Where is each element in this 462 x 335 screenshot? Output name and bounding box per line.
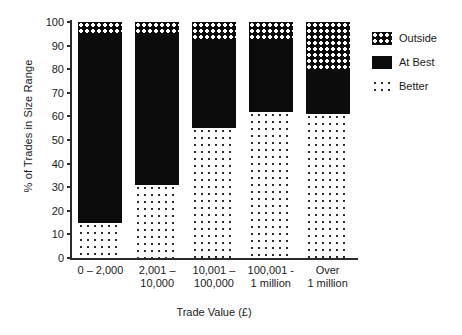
legend-label-outside: Outside <box>399 32 437 44</box>
plot-area: 0102030405060708090100 <box>72 22 356 258</box>
y-axis-tick-label: 10 <box>52 228 64 240</box>
stacked-bar <box>135 22 179 258</box>
bar-segment-at-best <box>135 34 179 185</box>
bar-segment-outside <box>249 22 293 39</box>
y-axis-tick-mark <box>67 233 72 235</box>
y-axis-tick-label: 80 <box>52 63 64 75</box>
y-axis-tick-mark <box>67 139 72 141</box>
y-axis-tick-mark <box>67 68 72 70</box>
y-axis-tick-label: 90 <box>52 40 64 52</box>
legend: Outside At Best Better <box>372 28 460 100</box>
better-swatch-icon <box>372 80 392 93</box>
y-axis-tick-mark <box>67 257 72 259</box>
legend-item-outside: Outside <box>372 28 460 48</box>
y-axis-tick: 90 <box>52 40 72 52</box>
y-axis-tick: 20 <box>52 205 72 217</box>
x-axis-tick-label-line2: 1 million <box>285 277 371 290</box>
legend-item-better: Better <box>372 76 460 96</box>
stacked-bar <box>306 22 350 258</box>
y-axis-tick-label: 70 <box>52 87 64 99</box>
bar-segment-outside <box>306 22 350 69</box>
stacked-bar <box>78 22 122 258</box>
bar-segment-better <box>135 185 179 258</box>
legend-item-at-best: At Best <box>372 52 460 72</box>
bar-segment-at-best <box>192 41 236 128</box>
y-axis-title: % of Trades in Size Range <box>22 16 34 236</box>
legend-label-better: Better <box>399 80 428 92</box>
y-axis-tick-mark <box>67 186 72 188</box>
y-axis-tick-mark <box>67 92 72 94</box>
y-axis-tick-label: 100 <box>46 16 64 28</box>
y-axis-tick: 40 <box>52 158 72 170</box>
y-axis-tick: 0 <box>58 252 72 264</box>
y-axis-tick-mark <box>67 21 72 23</box>
bar-segment-at-best <box>78 34 122 223</box>
bar-segment-outside <box>78 22 122 34</box>
y-axis-tick-label: 30 <box>52 181 64 193</box>
outside-swatch-icon <box>372 32 392 45</box>
legend-label-at-best: At Best <box>399 56 434 68</box>
bar-segment-better <box>306 114 350 258</box>
y-axis-tick-label: 20 <box>52 205 64 217</box>
bar-segment-better <box>249 112 293 258</box>
y-axis-tick-label: 50 <box>52 134 64 146</box>
x-axis-tick-label-line1: Over <box>285 264 371 277</box>
x-axis-line <box>70 258 358 260</box>
bar-segment-outside <box>135 22 179 34</box>
y-axis-tick-label: 0 <box>58 252 64 264</box>
y-axis-tick: 70 <box>52 87 72 99</box>
y-axis-tick-label: 40 <box>52 158 64 170</box>
bar-chart-figure: % of Trades in Size Range 01020304050607… <box>0 0 462 335</box>
stacked-bar <box>249 22 293 258</box>
bar-segment-better <box>78 223 122 258</box>
at-best-swatch-icon <box>372 56 392 69</box>
y-axis-tick: 50 <box>52 134 72 146</box>
bar-segment-outside <box>192 22 236 41</box>
y-axis-tick-mark <box>67 210 72 212</box>
y-axis-tick: 80 <box>52 63 72 75</box>
y-axis-tick-label: 60 <box>52 110 64 122</box>
stacked-bar <box>192 22 236 258</box>
y-axis-tick: 60 <box>52 110 72 122</box>
bar-segment-better <box>192 128 236 258</box>
x-axis-tick-label: Over1 million <box>285 264 371 290</box>
y-axis-tick: 10 <box>52 228 72 240</box>
y-axis-tick: 30 <box>52 181 72 193</box>
bar-segment-at-best <box>306 69 350 114</box>
bar-segment-at-best <box>249 39 293 112</box>
y-axis-tick-mark <box>67 115 72 117</box>
y-axis-tick-mark <box>67 45 72 47</box>
y-axis-tick: 100 <box>46 16 72 28</box>
x-axis-title: Trade Value (£) <box>72 306 356 318</box>
y-axis-tick-mark <box>67 163 72 165</box>
